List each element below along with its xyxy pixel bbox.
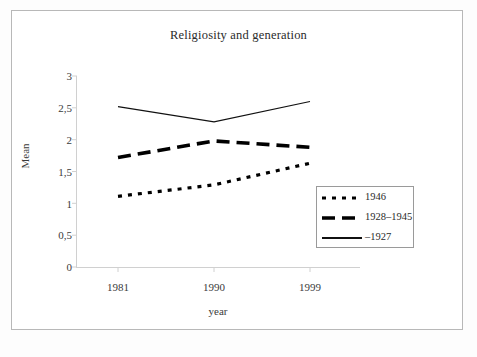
- plot-area: [0, 0, 477, 357]
- legend-row-1928-1945: 1928–1945: [317, 208, 415, 228]
- legend-swatch-dashed: [322, 208, 362, 228]
- chart-page: Religiosity and generation 3 2,5 2 1,5 1…: [0, 0, 477, 357]
- legend-row-1927: –1927: [317, 228, 415, 248]
- series-line-1927: [118, 101, 310, 121]
- chart-legend: 1946 1928–1945 –1927: [316, 186, 414, 248]
- legend-swatch-solid: [322, 228, 362, 248]
- legend-label-1928-1945: 1928–1945: [365, 211, 412, 222]
- series-line-1928-1945: [118, 141, 310, 158]
- legend-label-1946: 1946: [365, 191, 386, 202]
- legend-label-1927: –1927: [365, 231, 391, 242]
- legend-row-1946: 1946: [317, 188, 415, 208]
- series-line-1946: [118, 163, 310, 196]
- legend-swatch-dotted: [322, 188, 362, 208]
